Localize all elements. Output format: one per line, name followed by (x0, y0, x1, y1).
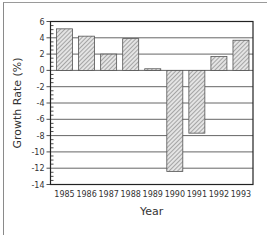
x-tick-label: 1986 (76, 190, 96, 199)
x-tick-label: 1988 (121, 190, 141, 199)
x-axis-title: Year (139, 205, 164, 218)
bar-chart: 6420-2-4-6-8-10-12-14 198519861987198819… (0, 0, 267, 235)
x-axis: 198519861987198819891990199119921993 (54, 190, 251, 199)
bar-1992 (211, 57, 227, 71)
bar-1986 (79, 36, 95, 70)
bar-1987 (101, 54, 117, 70)
y-tick-label: 6 (39, 18, 44, 27)
bars (57, 29, 249, 172)
x-tick-label: 1985 (54, 190, 74, 199)
y-tick-label: -12 (31, 164, 44, 173)
y-tick-label: 4 (39, 34, 44, 43)
y-tick-label: 2 (39, 50, 44, 59)
bar-1993 (233, 40, 249, 70)
y-tick-label: -14 (31, 181, 44, 190)
y-tick-label: -8 (37, 132, 45, 141)
y-tick-label: -10 (31, 148, 44, 157)
x-tick-label: 1991 (187, 190, 207, 199)
bar-1990 (167, 70, 183, 171)
x-tick-label: 1993 (231, 190, 251, 199)
y-tick-label: 0 (39, 66, 44, 75)
x-tick-label: 1990 (165, 190, 185, 199)
bar-1985 (57, 29, 73, 71)
y-axis-title: Growth Rate (%) (11, 57, 24, 148)
bar-1988 (123, 39, 139, 71)
bar-1991 (189, 70, 205, 133)
x-tick-label: 1987 (98, 190, 118, 199)
y-tick-label: -4 (37, 99, 45, 108)
y-tick-label: -6 (37, 115, 45, 124)
x-tick-label: 1992 (209, 190, 229, 199)
bar-1989 (145, 69, 161, 71)
y-tick-label: -2 (37, 83, 45, 92)
x-tick-label: 1989 (143, 190, 163, 199)
